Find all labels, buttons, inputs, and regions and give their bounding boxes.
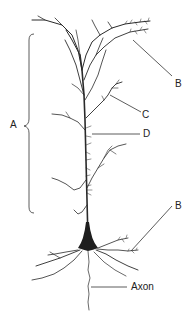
apical-dendrite-shaft [32,16,150,240]
leader-line-c [110,95,141,112]
label-d: D [143,129,150,139]
soma [78,222,98,251]
label-a: A [10,120,17,130]
leader-line-b-top [133,40,172,76]
right-oblique-branch [87,144,126,195]
leader-line-b-bottom [131,206,172,251]
label-b-top: B [175,79,182,89]
label-axon: Axon [131,282,154,292]
axon [88,251,90,310]
label-c: C [142,110,149,120]
bracket-a [24,34,34,213]
neuron-diagram [0,0,195,320]
label-b-bottom: B [175,201,182,211]
